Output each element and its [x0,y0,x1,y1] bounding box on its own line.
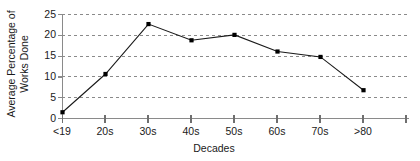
data-point-marker [232,33,236,37]
x-tick-label-7: >80 [346,126,380,137]
data-point-marker [103,72,107,76]
data-line [63,24,364,112]
plot-area [0,0,420,135]
x-tick-label-1: 20s [88,126,122,137]
y-tick-marks [58,15,62,119]
data-point-marker [318,55,322,59]
data-point-marker [60,110,64,114]
x-tick-label-0: <19 [45,126,79,137]
data-markers [60,22,365,114]
x-axis-title: Decades [0,142,420,154]
x-tick-label-6: 70s [303,126,337,137]
x-tick-label-5: 60s [260,126,294,137]
data-point-marker [361,88,365,92]
data-point-marker [146,22,150,26]
x-axis-title-text: Decades [193,142,234,154]
data-point-marker [275,49,279,53]
x-tick-label-2: 30s [131,126,165,137]
chart-figure: Average Percentage of Works Done 25 20 1… [0,0,420,161]
x-tick-label-4: 50s [217,126,251,137]
x-tick-label-3: 40s [174,126,208,137]
data-point-marker [189,38,193,42]
